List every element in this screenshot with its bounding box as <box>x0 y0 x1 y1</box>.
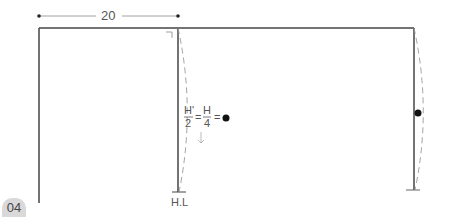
formula-denominator-right: 4 <box>204 117 210 129</box>
marker-dot-center <box>223 115 230 122</box>
formula-numerator-left: H' <box>184 104 194 116</box>
right-angle-mark <box>166 32 172 38</box>
formula-equals-2: = <box>214 111 220 123</box>
hem-line-label: H.L <box>171 196 188 208</box>
formula-equals-1: = <box>195 111 201 123</box>
step-badge: 04 <box>2 198 26 217</box>
formula-denominator-left: 2 <box>185 117 191 129</box>
marker-dot-right <box>415 110 422 117</box>
pattern-diagram <box>0 0 451 217</box>
dashed-curve-right <box>414 28 423 190</box>
dimension-start-dot <box>37 14 41 18</box>
formula-numerator-right: H <box>203 104 211 116</box>
footer-caption: ... <box>250 211 258 217</box>
dimension-end-dot <box>176 14 180 18</box>
dimension-label: 20 <box>101 8 115 23</box>
